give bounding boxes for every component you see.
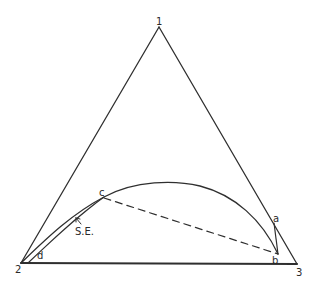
se-label: S.E. [75, 226, 94, 237]
triangle-outline [21, 27, 297, 264]
point-label-c: c [99, 187, 105, 198]
tie-line-c-b [104, 198, 278, 254]
point-label-a: a [273, 213, 279, 224]
point-label-d: d [37, 250, 43, 261]
vertex-label-1: 1 [156, 16, 162, 27]
ternary-diagram: 1 2 3 a b c d S.E. [0, 0, 331, 286]
point-label-b: b [272, 255, 278, 266]
edge-1-3 [159, 27, 297, 264]
edge-2-3 [21, 263, 297, 264]
binodal-curve [21, 182, 278, 263]
se-arrow-icon [76, 218, 81, 224]
vertex-label-2: 2 [15, 264, 21, 275]
vertex-label-3: 3 [296, 267, 302, 278]
